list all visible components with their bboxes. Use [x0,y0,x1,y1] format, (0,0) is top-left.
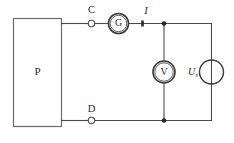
top-junction-dot [162,21,167,26]
voltmeter-label: V [160,66,168,77]
block-p-label: P [34,65,40,77]
circuit-diagram: P G V C D [0,0,234,143]
voltage-source-label-subscript: s [195,71,198,79]
voltage-source-label: Us [188,66,198,79]
galvanometer-label: G [115,17,122,28]
terminal-c-label: C [88,4,95,15]
terminal-d-label: D [88,103,96,114]
terminal-d-post[interactable] [88,117,94,123]
current-label: I [143,5,148,16]
terminal-c-post[interactable] [88,20,94,26]
bottom-junction-dot [162,118,167,123]
circuit-canvas: P G V C D [0,0,234,143]
